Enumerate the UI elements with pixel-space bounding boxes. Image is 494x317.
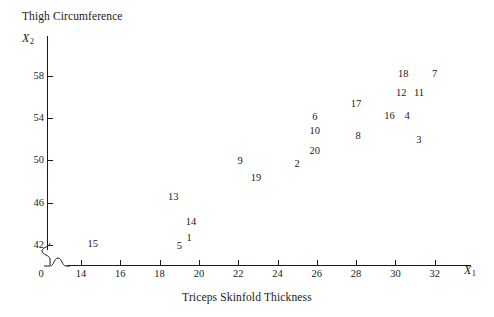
x-axis-tick bbox=[395, 260, 396, 265]
data-point-label: 8 bbox=[355, 131, 360, 142]
y-axis-variable-label: X2 bbox=[22, 31, 34, 46]
x-axis-tick-label: 20 bbox=[187, 268, 211, 279]
data-point-label: 11 bbox=[414, 87, 424, 98]
x-axis-variable-subscript: 1 bbox=[472, 268, 476, 278]
x-axis-tick bbox=[278, 260, 279, 265]
x-axis-tick-label: 24 bbox=[266, 268, 290, 279]
data-point-label: 14 bbox=[186, 216, 197, 227]
data-point-label: 5 bbox=[177, 241, 182, 252]
scatter-plot-figure: Thigh Circumference X2 0 X1 Triceps Skin… bbox=[0, 0, 494, 317]
x-axis-tick-label: 28 bbox=[344, 268, 368, 279]
data-point-label: 2 bbox=[295, 158, 300, 169]
y-axis-line bbox=[47, 36, 48, 250]
data-point-label: 7 bbox=[432, 68, 437, 79]
x-axis-tick bbox=[199, 260, 200, 265]
y-axis-variable-subscript: 2 bbox=[30, 36, 34, 46]
y-axis-title: Thigh Circumference bbox=[22, 10, 123, 22]
x-axis-tick bbox=[120, 260, 121, 265]
x-axis-tick-label: 14 bbox=[69, 268, 93, 279]
y-axis-tick-label: 46 bbox=[22, 197, 44, 208]
x-axis-tick bbox=[238, 260, 239, 265]
x-axis-title: Triceps Skinfold Thickness bbox=[0, 291, 494, 303]
data-point-label: 1 bbox=[186, 232, 191, 243]
x-axis-variable-label: X1 bbox=[464, 263, 476, 278]
data-point-label: 17 bbox=[351, 99, 362, 110]
data-point-label: 4 bbox=[405, 111, 410, 122]
data-point-label: 16 bbox=[384, 111, 395, 122]
data-point-label: 13 bbox=[168, 192, 179, 203]
y-axis-tick bbox=[48, 76, 53, 77]
y-axis-tick-label: 50 bbox=[22, 154, 44, 165]
y-axis-variable-letter: X bbox=[22, 31, 29, 45]
data-point-label: 6 bbox=[312, 112, 317, 123]
x-axis-tick-label: 26 bbox=[305, 268, 329, 279]
data-point-label: 19 bbox=[251, 173, 262, 184]
x-axis-line bbox=[67, 265, 471, 266]
x-axis-tick-label: 30 bbox=[383, 268, 407, 279]
x-axis-tick bbox=[81, 260, 82, 265]
x-axis-tick bbox=[317, 260, 318, 265]
x-axis-tick-label: 18 bbox=[148, 268, 172, 279]
y-axis-tick bbox=[48, 118, 53, 119]
y-axis-tick bbox=[48, 203, 53, 204]
data-point-label: 3 bbox=[416, 135, 421, 146]
y-axis-tick-label: 54 bbox=[22, 112, 44, 123]
y-axis-tick bbox=[48, 245, 53, 246]
y-axis-tick-label: 58 bbox=[22, 70, 44, 81]
x-axis-tick bbox=[356, 260, 357, 265]
x-axis-tick bbox=[435, 260, 436, 265]
y-axis-tick bbox=[48, 160, 53, 161]
data-point-label: 15 bbox=[88, 239, 99, 250]
x-axis-tick bbox=[160, 260, 161, 265]
y-axis-tick-label: 42 bbox=[22, 239, 44, 250]
axis-origin-label: 0 bbox=[34, 268, 48, 279]
x-axis-tick-label: 16 bbox=[108, 268, 132, 279]
data-point-label: 12 bbox=[396, 87, 407, 98]
data-point-label: 20 bbox=[310, 146, 321, 157]
data-point-label: 18 bbox=[398, 68, 409, 79]
data-point-label: 9 bbox=[238, 156, 243, 167]
x-axis-tick-label: 22 bbox=[226, 268, 250, 279]
data-point-label: 10 bbox=[310, 125, 321, 136]
x-axis-tick-label: 32 bbox=[423, 268, 447, 279]
x-axis-variable-letter: X bbox=[464, 263, 471, 277]
